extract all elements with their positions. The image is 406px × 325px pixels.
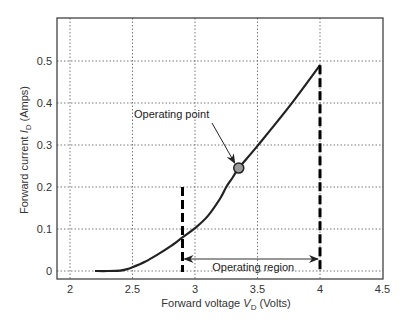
x-axis-ticks: 22.533.544.5 xyxy=(67,283,390,295)
operating-region-label: Operating region xyxy=(212,261,294,273)
y-tick-label: 0.2 xyxy=(37,181,52,193)
operating-point-arrow-icon xyxy=(212,123,235,163)
y-axis-ticks: 00.10.20.30.40.5 xyxy=(37,55,52,277)
x-tick-label: 4.5 xyxy=(375,283,390,295)
y-axis-title-suffix: (Amps) xyxy=(18,86,30,125)
x-tick-label: 2 xyxy=(67,283,73,295)
chart: 22.533.544.5 00.10.20.30.40.5 Operating … xyxy=(0,0,406,325)
iv-curve xyxy=(95,65,320,271)
y-axis-title: Forward current ID (Amps) xyxy=(18,86,33,214)
y-tick-label: 0.1 xyxy=(37,223,52,235)
plot-frame xyxy=(57,18,383,279)
x-axis-title-suffix: (Volts) xyxy=(256,297,290,309)
x-tick-label: 3.5 xyxy=(250,283,265,295)
grid xyxy=(57,18,383,279)
y-tick-label: 0.5 xyxy=(37,55,52,67)
operating-point-marker xyxy=(234,163,244,173)
y-tick-label: 0 xyxy=(46,265,52,277)
operating-point-label: Operating point xyxy=(134,108,209,120)
x-axis-title: Forward voltage VD (Volts) xyxy=(161,297,290,312)
y-axis-title-prefix: Forward current xyxy=(18,133,30,214)
y-tick-label: 0.3 xyxy=(37,139,52,151)
x-tick-label: 3 xyxy=(192,283,198,295)
y-tick-label: 0.4 xyxy=(37,97,52,109)
x-tick-label: 2.5 xyxy=(125,283,140,295)
x-axis-title-prefix: Forward voltage xyxy=(161,297,243,309)
x-tick-label: 4 xyxy=(317,283,323,295)
